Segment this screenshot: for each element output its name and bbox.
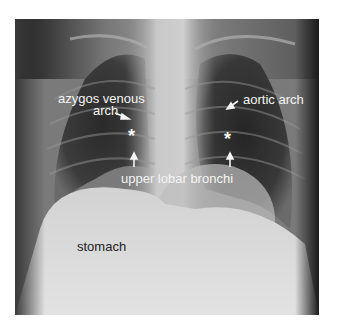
label-aortic-arch: aortic arch bbox=[243, 93, 304, 107]
label-upper-lobar-bronchi: upper lobar bronchi bbox=[121, 172, 233, 186]
marker-right-asterisk: * bbox=[224, 130, 231, 148]
label-stomach: stomach bbox=[77, 240, 126, 254]
chest-xray-image bbox=[15, 19, 319, 315]
marker-left-asterisk: * bbox=[128, 127, 135, 145]
label-azygos-line2: arch bbox=[93, 104, 118, 118]
xray-rendering bbox=[15, 19, 319, 315]
